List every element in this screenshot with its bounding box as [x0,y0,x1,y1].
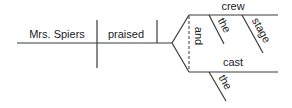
conjunction-word: and [193,27,205,45]
modifier-word-crew-stage: stage [250,15,274,44]
sentence-diagram: Mrs. Spiers praised crew cast and the st… [0,0,292,108]
fork-upper [172,15,189,43]
fork-lower [172,43,189,72]
object-word-crew: crew [221,0,244,12]
object-word-cast: cast [223,56,243,68]
subject-word: Mrs. Spiers [29,28,85,40]
verb-word: praised [108,28,144,40]
